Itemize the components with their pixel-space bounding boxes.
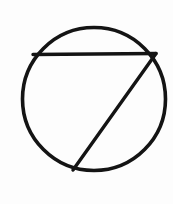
outer-circle-shape: [23, 28, 166, 171]
horizontal-chord-shape: [33, 54, 156, 55]
drawing-canvas: [0, 0, 173, 204]
line-drawing-figure: [0, 0, 173, 204]
